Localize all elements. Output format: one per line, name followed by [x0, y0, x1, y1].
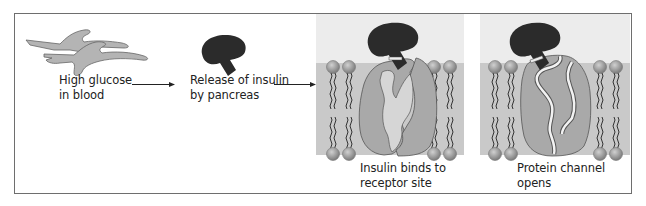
label-channel-opens: Protein channel opens — [517, 161, 605, 191]
label-insulin-release: Release of insulin by pancreas — [190, 73, 289, 103]
receptor-protein-open — [521, 55, 591, 156]
insulin-icon — [202, 35, 246, 76]
label-line: Insulin binds to — [360, 161, 446, 176]
label-high-glucose: High glucose in blood — [59, 73, 132, 103]
insulin-signaling-diagram: High glucose in blood Release of insulin… — [0, 0, 646, 206]
label-line: Release of insulin — [190, 73, 289, 88]
label-line: in blood — [59, 88, 132, 103]
label-line: Protein channel — [517, 161, 605, 176]
panel-channel-opens — [480, 14, 630, 161]
arrow-glucose-to-insulin — [132, 82, 175, 87]
panel-insulin-binds — [316, 14, 464, 161]
label-line: opens — [517, 176, 605, 191]
label-line: receptor site — [360, 176, 446, 191]
label-line: High glucose — [59, 73, 132, 88]
label-line: by pancreas — [190, 88, 289, 103]
glucose-icon — [26, 30, 148, 76]
label-insulin-binds: Insulin binds to receptor site — [360, 161, 446, 191]
receptor-protein-closed — [359, 58, 437, 156]
